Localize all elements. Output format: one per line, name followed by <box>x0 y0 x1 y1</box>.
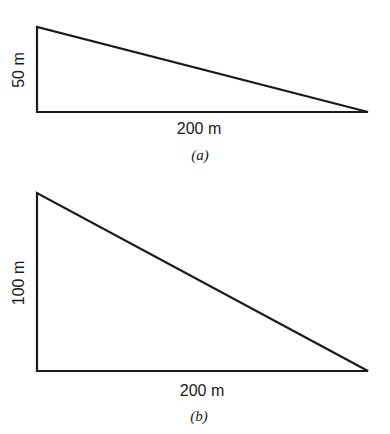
triangle-diagrams: 50 m 200 m (a) 100 m 200 m (b) <box>0 0 390 434</box>
triangle-a-base-label: 200 m <box>177 120 221 137</box>
triangle-a-caption: (a) <box>191 147 209 164</box>
triangle-b-height-label: 100 m <box>10 261 27 305</box>
triangle-b: 100 m 200 m (b) <box>10 193 368 425</box>
triangle-b-base-label: 200 m <box>180 382 224 399</box>
triangle-a-shape <box>37 27 368 112</box>
triangle-b-shape <box>37 193 368 371</box>
triangle-a: 50 m 200 m (a) <box>10 27 368 164</box>
triangle-a-height-label: 50 m <box>10 52 27 88</box>
triangle-b-caption: (b) <box>190 408 208 425</box>
